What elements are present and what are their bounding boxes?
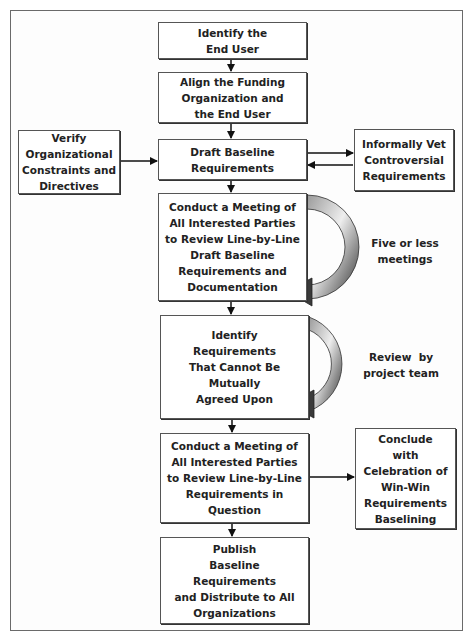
step-line: Requirements — [363, 168, 446, 184]
step-conduct-meeting-question: Conduct a Meeting of All Interested Part… — [160, 433, 309, 523]
step-identify-end-user: Identify the End User — [158, 22, 307, 59]
step-line: to Review Line-by-Line — [167, 470, 302, 486]
step-line: to Review Line-by-Line — [165, 231, 300, 247]
note-line: project team — [356, 365, 446, 381]
step-line: Draft Baseline — [190, 247, 274, 263]
step-line: Identify the — [198, 25, 267, 41]
step-line: Conclude — [378, 431, 432, 447]
step-line: All Interested Parties — [171, 454, 297, 470]
step-line: End User — [206, 41, 259, 57]
step-line: with — [393, 447, 419, 463]
step-line: Conduct a Meeting of — [169, 199, 296, 215]
step-identify-disagreements: Identify Requirements That Cannot Be Mut… — [160, 315, 309, 419]
step-line: Documentation — [187, 279, 278, 295]
step-line: All Interested Parties — [169, 215, 295, 231]
step-line: Directives — [39, 178, 99, 194]
step-line: Requirements — [193, 343, 276, 359]
step-line: the End User — [194, 106, 270, 122]
step-line: Requirements and — [178, 263, 287, 279]
step-line: Win-Win — [381, 479, 430, 495]
step-line: Agreed Upon — [196, 391, 273, 407]
step-line: Celebration of — [363, 463, 447, 479]
step-publish-baseline: Publish Baseline Requirements and Distri… — [160, 537, 309, 624]
step-line: Baseline — [209, 557, 259, 573]
step-line: Organizational — [26, 146, 113, 162]
step-line: Verify — [52, 130, 87, 146]
step-conduct-meeting-review: Conduct a Meeting of All Interested Part… — [158, 193, 307, 301]
step-line: Organization and — [181, 90, 283, 106]
side-informally-vet: Informally Vet Controversial Requirement… — [354, 129, 454, 191]
step-line: Controversial — [364, 152, 443, 168]
step-line: Question — [208, 502, 261, 518]
step-line: Requirements in — [186, 486, 284, 502]
step-line: Baselining — [375, 511, 437, 527]
note-line: meetings — [360, 251, 450, 267]
side-conclude-celebration: Conclude with Celebration of Win-Win Req… — [355, 428, 456, 529]
step-line: Informally Vet — [362, 136, 446, 152]
step-line: and Distribute to All — [174, 589, 294, 605]
step-align-funding: Align the Funding Organization and the E… — [158, 72, 307, 123]
side-verify-constraints: Verify Organizational Constraints and Di… — [18, 130, 120, 194]
step-line: That Cannot Be — [189, 359, 280, 375]
step-line: Identify — [211, 327, 257, 343]
step-line: Publish — [213, 541, 257, 557]
step-line: Constraints and — [22, 162, 116, 178]
note-line: Five or less — [360, 235, 450, 251]
step-line: Align the Funding — [180, 74, 285, 90]
note-review-by-team: Review by project team — [356, 349, 446, 381]
step-line: Requirements — [193, 573, 276, 589]
note-line: Review by — [356, 349, 446, 365]
step-line: Draft Baseline — [190, 144, 274, 160]
step-line: Requirements — [364, 495, 447, 511]
step-draft-baseline: Draft Baseline Requirements — [158, 139, 307, 180]
step-line: Conduct a Meeting of — [171, 438, 298, 454]
step-line: Mutually — [209, 375, 261, 391]
step-line: Requirements — [191, 160, 274, 176]
step-line: Organizations — [193, 605, 276, 621]
note-five-or-less: Five or less meetings — [360, 235, 450, 267]
